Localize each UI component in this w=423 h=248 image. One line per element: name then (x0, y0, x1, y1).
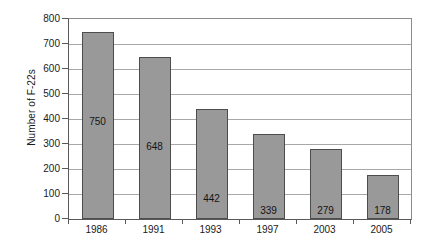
x-category-label: 1993 (199, 224, 221, 235)
x-category-label: 2003 (313, 224, 335, 235)
x-category-label: 2005 (370, 224, 392, 235)
bar: 648 (139, 57, 171, 219)
y-tick-label: 100 (22, 188, 60, 199)
bar-value-label: 750 (83, 115, 113, 126)
bar-value-label: 279 (311, 205, 341, 216)
gridline (69, 69, 411, 70)
bar: 442 (196, 109, 228, 220)
gridline (69, 144, 411, 145)
y-tick-label: 800 (22, 13, 60, 24)
gridline (69, 169, 411, 170)
x-tick-mark (125, 219, 126, 224)
gridline (69, 94, 411, 95)
bar-value-label: 442 (197, 192, 227, 203)
bar: 279 (310, 149, 342, 219)
x-tick-mark (239, 219, 240, 224)
x-tick-mark (410, 219, 411, 224)
x-tick-mark (353, 219, 354, 224)
y-axis-title: Number of F-22s (26, 28, 37, 188)
x-category-label: 1997 (256, 224, 278, 235)
bar: 178 (367, 175, 399, 220)
bar: 339 (253, 134, 285, 219)
gridline (69, 194, 411, 195)
x-tick-mark (296, 219, 297, 224)
x-category-label: 1991 (142, 224, 164, 235)
bar-chart: Number of F-22s 010020030040050060070080… (0, 0, 423, 248)
bar-value-label: 339 (254, 205, 284, 216)
plot-area: 750648442339279178 (68, 18, 412, 220)
gridline (69, 44, 411, 45)
y-tick-label: 0 (22, 213, 60, 224)
bar: 750 (82, 32, 114, 220)
gridline (69, 119, 411, 120)
x-tick-mark (68, 219, 69, 224)
x-category-label: 1986 (85, 224, 107, 235)
bar-value-label: 648 (140, 141, 170, 152)
bar-value-label: 178 (368, 205, 398, 216)
x-tick-mark (182, 219, 183, 224)
